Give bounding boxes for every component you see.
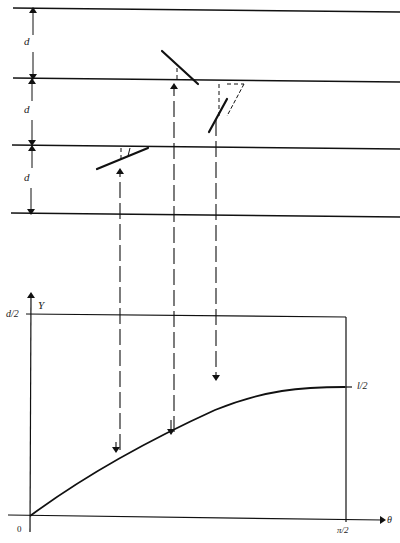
origin-label: 0 [17, 525, 22, 534]
needles [97, 51, 227, 169]
plot-axes [8, 295, 383, 532]
l-half-label: l/2 [357, 381, 368, 391]
diagram-svg [0, 0, 400, 543]
y-axis-label: Y [38, 300, 44, 311]
spacing-label-2: d [24, 104, 30, 115]
parallel-lines [11, 8, 400, 217]
x-axis-label: θ [387, 515, 392, 525]
d-half-tick-label: d/2 [6, 309, 19, 319]
pi-half-tick-label: π/2 [337, 526, 349, 535]
sine-curve [30, 387, 345, 516]
d-half-line [26, 314, 346, 317]
spacing-arrows [31, 10, 33, 212]
y-axis [30, 295, 31, 532]
spacing-label-3: d [24, 172, 30, 183]
projection-lines [120, 86, 216, 450]
needle-2 [209, 99, 227, 132]
spacing-label-1: d [24, 36, 30, 47]
needle-3 [97, 148, 148, 169]
buffon-needle-figure: d d d Y d/2 l/2 0 π/2 θ [0, 0, 400, 543]
x-axis [8, 515, 383, 520]
